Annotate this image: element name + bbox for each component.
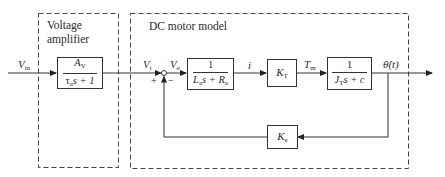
electrical-transfer-block: 1 Las + Ra bbox=[187, 58, 234, 90]
amplifier-transfer-block: AV τas + 1 bbox=[57, 57, 103, 89]
back-emf-label: Ke bbox=[277, 130, 287, 144]
amplifier-denominator: τas + 1 bbox=[65, 74, 94, 90]
amplifier-title-line1: Voltage bbox=[47, 18, 89, 32]
amplifier-title-line2: amplifier bbox=[47, 32, 89, 46]
summing-junction bbox=[162, 71, 167, 76]
signal-vt: Vt bbox=[143, 59, 152, 72]
signal-torque: Tm bbox=[304, 59, 316, 72]
amplifier-region-title: Voltage amplifier bbox=[47, 18, 89, 46]
signal-vin: Vin bbox=[18, 59, 30, 72]
torque-constant-block: KT bbox=[267, 59, 297, 87]
electrical-denominator: Las + Ra bbox=[193, 73, 228, 89]
electrical-numerator: 1 bbox=[193, 59, 229, 73]
mechanical-transfer-block: 1 JTs + c bbox=[327, 57, 372, 90]
signal-output: θ̇(t) bbox=[383, 59, 399, 70]
mechanical-denominator: JTs + c bbox=[334, 73, 364, 89]
signal-ve: Ve bbox=[170, 59, 180, 72]
sum-minus-sign: − bbox=[168, 76, 174, 86]
signal-current: i bbox=[248, 60, 251, 71]
sum-plus-sign: + bbox=[151, 76, 157, 86]
back-emf-block: Ke bbox=[267, 125, 298, 149]
amplifier-numerator: AV bbox=[63, 57, 98, 74]
torque-constant-label: KT bbox=[276, 66, 288, 80]
mechanical-numerator: 1 bbox=[332, 59, 366, 73]
motor-region-title: DC motor model bbox=[149, 19, 227, 33]
